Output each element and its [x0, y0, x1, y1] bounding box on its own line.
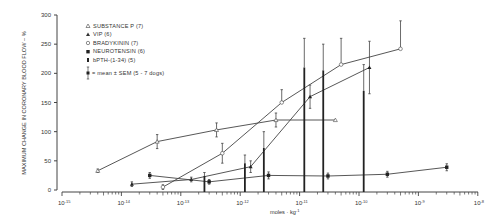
- y-tick-label: 200: [41, 70, 52, 76]
- y-tick-label: 0: [48, 187, 52, 193]
- x-tick-label: 10-11: [296, 199, 309, 207]
- y-tick-label: 100: [41, 129, 52, 135]
- open-circle-marker: [280, 101, 284, 105]
- filled-square-marker: [326, 174, 329, 177]
- svg-text:VIP (6): VIP (6): [93, 31, 112, 37]
- line-chart: MAXIMUM CHANGE IN CORONARY BLOOD FLOW – …: [0, 0, 502, 224]
- series-substance: [96, 113, 338, 173]
- filled-triangle-marker: [367, 66, 371, 70]
- legend: SUBSTANCE P (7) VIP (6) BRADYKININ (7) N…: [86, 23, 164, 80]
- legend-note-mean-sem: = mean ± SEM (5 - 7 dogs): [87, 67, 165, 79]
- y-tick-label: 250: [41, 41, 52, 47]
- x-tick-label: 10-13: [177, 199, 190, 207]
- open-triangle-icon: [86, 24, 90, 28]
- x-tick-label: 10-14: [117, 199, 130, 207]
- filled-square-icon: [86, 50, 89, 53]
- legend-item-bradykinin: BRADYKININ (7): [86, 40, 138, 46]
- open-triangle-marker: [96, 169, 100, 173]
- x-axis-label: moles · kg-1: [270, 208, 300, 215]
- filled-square-marker: [386, 173, 389, 176]
- open-circle-marker: [399, 47, 403, 51]
- filled-square-marker: [207, 180, 210, 183]
- svg-text:bPTH-(1-34) (5): bPTH-(1-34) (5): [93, 57, 135, 63]
- legend-item-substance-p: SUBSTANCE P (7): [86, 23, 143, 29]
- x-ticks: 10-1510-1410-1310-1210-1110-1010-910-8: [58, 192, 485, 206]
- legend-item-neurotensin: NEUROTENSIN (6): [86, 48, 145, 54]
- filled-triangle-marker: [308, 95, 312, 99]
- y-tick-label: 50: [44, 158, 51, 164]
- series-bpth: [203, 38, 365, 192]
- x-tick-label: 10-12: [236, 199, 249, 207]
- open-circle-icon: [86, 41, 89, 44]
- legend-item-vip: VIP (6): [86, 31, 112, 37]
- svg-text:BRADYKININ (7): BRADYKININ (7): [93, 40, 138, 46]
- y-tick-label: 300: [41, 12, 52, 18]
- filled-square-marker: [148, 174, 151, 177]
- series-layer: [96, 21, 449, 192]
- open-circle-marker: [221, 151, 225, 155]
- filled-triangle-icon: [86, 33, 90, 37]
- series-vip: [130, 41, 372, 186]
- svg-text:= mean ± SEM (5 - 7 dogs): = mean ± SEM (5 - 7 dogs): [92, 70, 164, 76]
- y-axis-label: MAXIMUM CHANGE IN CORONARY BLOOD FLOW – …: [21, 31, 27, 174]
- series-bradykinin: [161, 21, 402, 190]
- legend-item-bpth: bPTH-(1-34) (5): [87, 57, 135, 63]
- y-ticks: 300250200150100500: [41, 12, 57, 193]
- series-neurotensin: [148, 164, 448, 184]
- open-circle-marker: [161, 185, 165, 189]
- filled-square-marker: [445, 166, 448, 169]
- chart-container: MAXIMUM CHANGE IN CORONARY BLOOD FLOW – …: [0, 0, 502, 224]
- svg-text:SUBSTANCE P (7): SUBSTANCE P (7): [93, 23, 143, 29]
- x-tick-label: 10-10: [355, 199, 368, 207]
- filled-square-marker: [267, 174, 270, 177]
- x-tick-label: 10-9: [414, 199, 425, 207]
- y-tick-label: 150: [41, 100, 52, 106]
- x-tick-label: 10-15: [58, 199, 71, 207]
- bar-icon: [87, 58, 89, 62]
- x-tick-label: 10-8: [474, 199, 485, 207]
- svg-text:NEUROTENSIN (6): NEUROTENSIN (6): [93, 48, 145, 54]
- open-circle-marker: [339, 63, 343, 67]
